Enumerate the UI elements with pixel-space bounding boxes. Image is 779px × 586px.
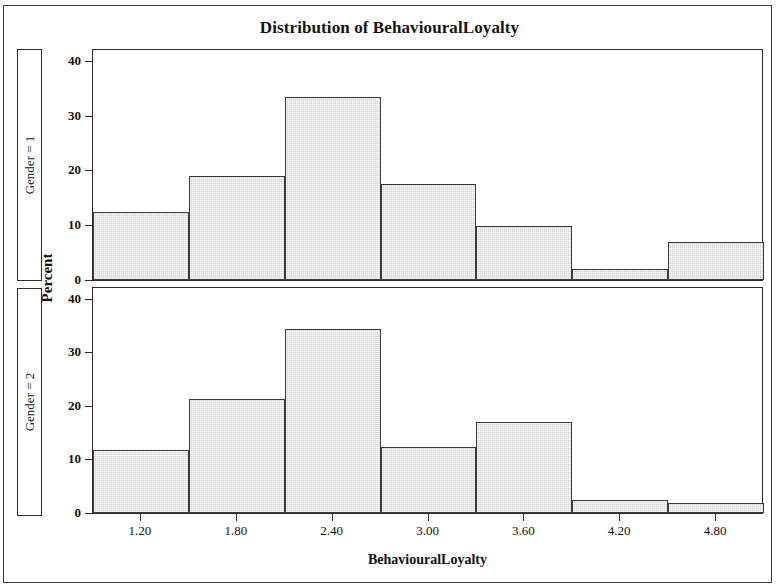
- strip-label-text: Gender = 2: [22, 373, 38, 432]
- plot-area: 010203040: [93, 50, 762, 280]
- x-tick-mark: [236, 514, 237, 521]
- plot-panel-gender-2: 010203040: [92, 287, 763, 514]
- y-tick-mark: [85, 61, 93, 62]
- x-tick-mark: [140, 514, 141, 521]
- y-tick-label: 10: [68, 217, 81, 233]
- y-tick-mark: [85, 280, 93, 281]
- histogram-bar: [285, 329, 381, 513]
- y-tick-mark: [85, 225, 93, 226]
- x-tick-label: 3.00: [416, 523, 439, 539]
- x-tick-label: 1.20: [129, 523, 152, 539]
- y-tick-label: 40: [68, 53, 81, 69]
- y-tick-label: 0: [75, 505, 82, 521]
- histogram-bar: [189, 176, 285, 280]
- plot-area: 010203040: [93, 288, 762, 513]
- y-tick-label: 0: [75, 272, 82, 288]
- y-tick-mark: [85, 459, 93, 460]
- histogram-bar: [285, 97, 381, 280]
- x-tick-label: 4.80: [704, 523, 727, 539]
- x-tick-mark: [428, 514, 429, 521]
- x-tick-label: 2.40: [320, 523, 343, 539]
- histogram-bar: [93, 212, 189, 280]
- histogram-bar: [668, 242, 764, 280]
- y-tick-label: 10: [68, 451, 81, 467]
- histogram-bar: [93, 450, 189, 513]
- histogram-bar: [189, 399, 285, 513]
- y-tick-label: 30: [68, 344, 81, 360]
- y-tick-label: 20: [68, 398, 81, 414]
- bars-layer: [93, 288, 762, 513]
- histogram-bar: [476, 226, 572, 280]
- x-tick-label: 3.60: [512, 523, 535, 539]
- y-tick-label: 20: [68, 162, 81, 178]
- y-tick-label: 40: [68, 291, 81, 307]
- x-axis: 1.201.802.403.003.604.204.80: [92, 514, 763, 544]
- histogram-bar: [381, 447, 477, 513]
- y-tick-mark: [85, 116, 93, 117]
- x-axis-title: BehaviouralLoyalty: [92, 552, 763, 568]
- x-tick-mark: [523, 514, 524, 521]
- x-tick-label: 4.20: [608, 523, 631, 539]
- x-tick-label: 1.80: [224, 523, 247, 539]
- y-axis-title: Percent: [38, 228, 56, 328]
- page-title: Distribution of BehaviouralLoyalty: [0, 18, 779, 38]
- y-tick-mark: [85, 352, 93, 353]
- strip-label-text: Gender = 1: [22, 136, 38, 195]
- histogram-screenshot: Distribution of BehaviouralLoyalty Gende…: [0, 0, 779, 586]
- plot-panel-gender-1: 010203040: [92, 49, 763, 281]
- histogram-bar: [476, 422, 572, 513]
- x-tick-mark: [715, 514, 716, 521]
- histogram-bar: [572, 269, 668, 280]
- x-tick-mark: [619, 514, 620, 521]
- histogram-bar: [381, 184, 477, 280]
- x-tick-mark: [332, 514, 333, 521]
- histogram-bar: [668, 503, 764, 513]
- bars-layer: [93, 50, 762, 280]
- y-tick-label: 30: [68, 108, 81, 124]
- y-tick-mark: [85, 170, 93, 171]
- y-tick-mark: [85, 299, 93, 300]
- y-axis-title-text: Percent: [39, 254, 56, 303]
- histogram-bar: [572, 500, 668, 513]
- y-tick-mark: [85, 406, 93, 407]
